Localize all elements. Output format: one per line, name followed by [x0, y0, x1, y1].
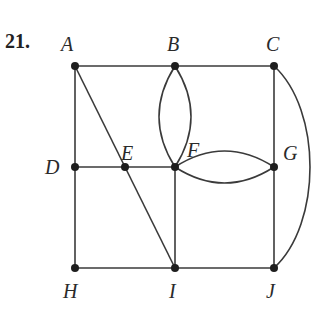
label-H: H [62, 280, 79, 302]
edge-E-I [125, 167, 175, 268]
vertex-B [171, 62, 179, 70]
label-G: G [283, 142, 298, 164]
label-J: J [266, 280, 276, 302]
edge-A-E [75, 66, 125, 167]
graph-diagram: A B C D E F G H I J [0, 0, 322, 310]
vertex-J [270, 264, 278, 272]
label-A: A [59, 33, 74, 55]
vertex-D [71, 163, 79, 171]
vertex-H [71, 264, 79, 272]
vertex-C [270, 62, 278, 70]
label-E: E [120, 142, 133, 164]
label-D: D [44, 156, 60, 178]
vertex-F [171, 163, 179, 171]
vertex-A [71, 62, 79, 70]
edge-C-J-arc [274, 66, 310, 268]
vertex-I [171, 264, 179, 272]
edge-B-F-left [159, 66, 175, 167]
label-B: B [167, 33, 179, 55]
edge-F-G-lower [175, 167, 274, 183]
label-F: F [186, 139, 200, 161]
label-C: C [266, 33, 280, 55]
vertex-E [121, 163, 129, 171]
vertex-G [270, 163, 278, 171]
label-I: I [168, 280, 177, 302]
